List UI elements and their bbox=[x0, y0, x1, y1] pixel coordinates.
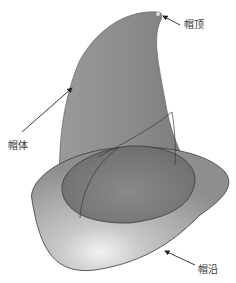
hat-tip-highlight bbox=[156, 12, 160, 16]
arrow-top bbox=[163, 16, 180, 25]
arrow-brim bbox=[165, 251, 195, 265]
label-hat-top: 帽顶 bbox=[184, 19, 204, 31]
label-hat-body: 帽体 bbox=[8, 140, 28, 152]
hat-diagram bbox=[0, 0, 236, 283]
label-hat-brim: 帽沿 bbox=[198, 264, 218, 276]
